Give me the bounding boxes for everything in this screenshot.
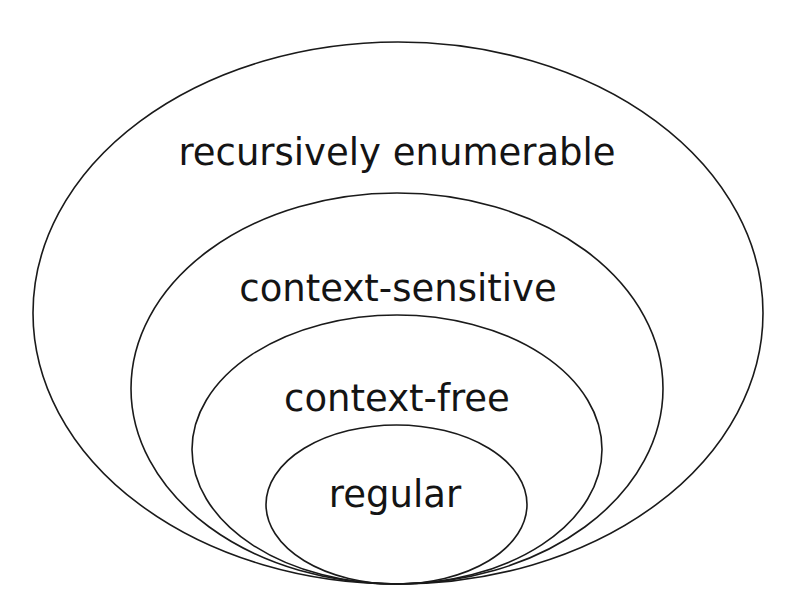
context-sensitive-label: context-sensitive bbox=[239, 267, 556, 310]
recursively-enumerable-label: recursively enumerable bbox=[178, 131, 615, 174]
regular-label: regular bbox=[329, 473, 462, 516]
chomsky-hierarchy-diagram: recursively enumerable context-sensitive… bbox=[0, 0, 791, 615]
context-free-label: context-free bbox=[284, 377, 510, 420]
